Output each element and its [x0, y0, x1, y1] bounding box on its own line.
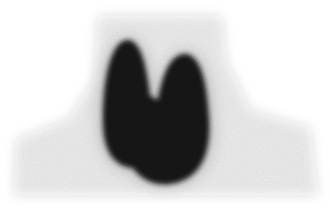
- scintigraphy-image: [0, 0, 330, 213]
- thyroid-scan-graphic: [0, 0, 330, 213]
